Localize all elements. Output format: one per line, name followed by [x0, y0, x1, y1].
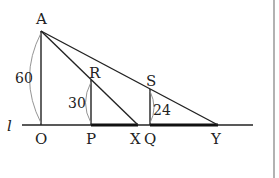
label-x: X: [130, 130, 141, 148]
measure-sq: 24: [153, 102, 171, 118]
measure-rp: 30: [68, 95, 86, 111]
label-line-l: l: [7, 117, 12, 135]
label-o: O: [35, 130, 47, 148]
label-r: R: [89, 64, 101, 82]
measure-ao: 60: [15, 70, 33, 86]
geometry-diagram: A O P R X Q S Y l 60 30 24: [0, 0, 279, 178]
label-a: A: [35, 10, 47, 28]
label-y: Y: [210, 130, 222, 148]
label-p: P: [86, 130, 96, 148]
arc-rp: [86, 82, 92, 123]
label-s: S: [146, 72, 156, 90]
label-q: Q: [144, 130, 156, 148]
